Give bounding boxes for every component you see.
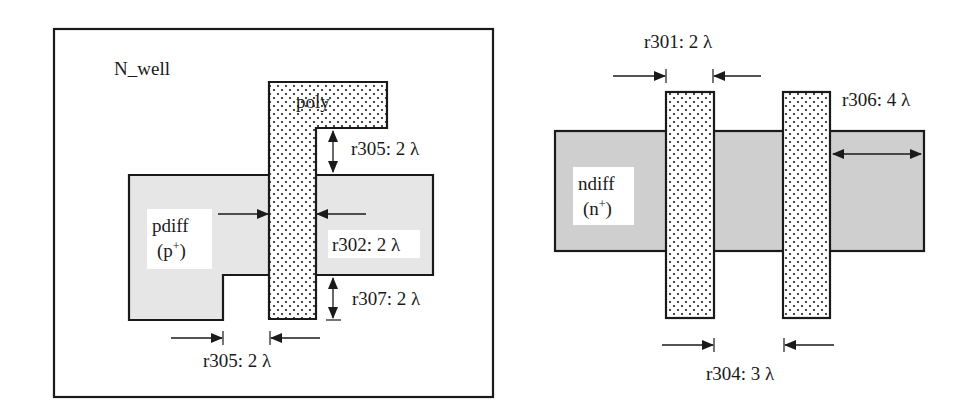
pdiff-type-close: ) bbox=[180, 240, 186, 262]
r306-label: r306: 4 λ bbox=[842, 89, 911, 110]
r305-top-label: r305: 2 λ bbox=[351, 138, 420, 159]
left-diagram-pmos: N_well pdiff (p+) poly r305: 2 λ r302: 2… bbox=[54, 29, 493, 397]
ndiff-type-base: (n bbox=[583, 198, 599, 220]
poly-gate-1 bbox=[666, 92, 714, 318]
layout-design-rules-figure: N_well pdiff (p+) poly r305: 2 λ r302: 2… bbox=[0, 0, 979, 420]
r304-label: r304: 3 λ bbox=[706, 363, 775, 384]
n-well-label: N_well bbox=[114, 58, 170, 79]
ndiff-type-close: ) bbox=[606, 198, 612, 220]
r302-label: r302: 2 λ bbox=[332, 234, 401, 255]
ndiff-label: ndiff bbox=[578, 173, 615, 194]
ndiff-type-label: (n+) bbox=[583, 197, 612, 220]
r305-bottom-label: r305: 2 λ bbox=[203, 350, 272, 371]
poly-label: poly bbox=[296, 91, 330, 112]
poly-gate-2 bbox=[783, 92, 830, 318]
right-diagram-nmos: ndiff (n+) r301: 2 λ r306: 4 λ r304: 3 λ bbox=[555, 31, 924, 384]
pdiff-type-base: (p bbox=[157, 240, 173, 262]
pdiff-label: pdiff bbox=[152, 215, 189, 236]
r307-label: r307: 2 λ bbox=[352, 288, 421, 309]
r301-label: r301: 2 λ bbox=[644, 31, 713, 52]
pdiff-type-label: (p+) bbox=[157, 239, 186, 262]
